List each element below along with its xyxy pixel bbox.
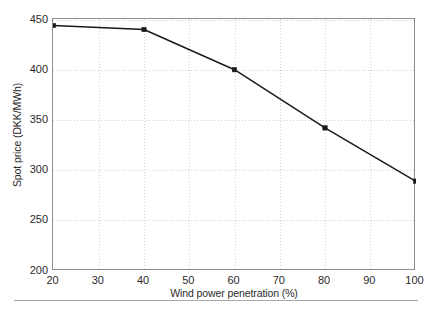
x-tick-label: 20 bbox=[46, 275, 58, 286]
x-tick-label: 100 bbox=[405, 275, 423, 286]
data-point-markers bbox=[53, 23, 416, 183]
footer-divider bbox=[14, 300, 418, 301]
x-axis-title: Wind power penetration (%) bbox=[52, 287, 416, 299]
x-tick-label: 50 bbox=[182, 275, 194, 286]
x-tick-label: 90 bbox=[363, 275, 375, 286]
x-tick-label: 70 bbox=[273, 275, 285, 286]
x-tick-label: 40 bbox=[137, 275, 149, 286]
x-tick-label: 30 bbox=[92, 275, 104, 286]
plot-area bbox=[52, 18, 415, 270]
plot-canvas bbox=[53, 19, 416, 271]
x-tick-label: 80 bbox=[318, 275, 330, 286]
chart-figure: Spot price (DKK/MWh) 200250300350400450 … bbox=[0, 0, 432, 309]
x-tick-label: 60 bbox=[227, 275, 239, 286]
gridlines bbox=[53, 19, 416, 271]
data-series-line bbox=[54, 26, 416, 182]
